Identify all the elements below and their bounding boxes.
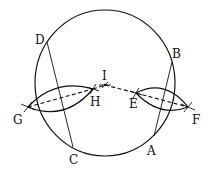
tick-f (181, 102, 195, 112)
label-b: B (172, 47, 181, 61)
label-h: H (90, 95, 100, 109)
circle-center-construction-diagram: D B I H E G F A C (0, 0, 208, 174)
label-g: G (13, 113, 23, 127)
label-c: C (69, 153, 78, 167)
label-a: A (146, 144, 156, 158)
tick-marks (21, 82, 195, 112)
center-point-i (104, 84, 107, 87)
label-d: D (35, 33, 45, 47)
chord-dc (47, 42, 73, 147)
arc-gh-lower (28, 89, 93, 112)
label-e: E (129, 97, 138, 111)
label-f: F (192, 113, 200, 127)
tick-g (21, 102, 35, 112)
tick-h (87, 84, 99, 94)
label-i: I (102, 69, 107, 83)
